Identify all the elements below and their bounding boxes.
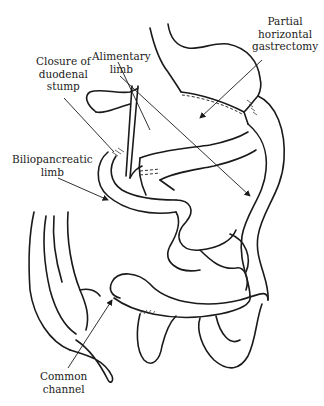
colon <box>29 212 112 382</box>
diagram-canvas: Partial horizontal gastrectomy Closure o… <box>0 0 324 406</box>
label-closure-of-duodenal-stump: Closure of duodenal stump <box>36 55 91 93</box>
biliopancreatic-limb-tube <box>98 148 176 213</box>
label-partial-horizontal-gastrectomy: Partial horizontal gastrectomy <box>252 15 318 53</box>
stomach-remnant <box>150 24 261 124</box>
label-alimentary-limb: Alimentary limb <box>92 50 151 75</box>
label-biliopancreatic-limb: Biliopancreatic limb <box>12 153 93 178</box>
label-common-channel: Common channel <box>40 370 87 395</box>
